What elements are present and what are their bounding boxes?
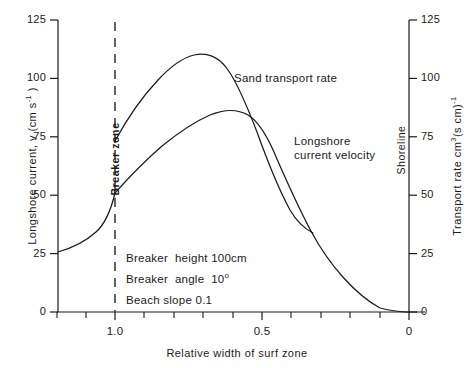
- x-axis-major-ticks: [115, 312, 409, 320]
- y-axis-left-ticks: [50, 20, 58, 312]
- y-axis-right-title: Transport rate cm3(s cm)-1: [451, 51, 463, 281]
- y-left-tick-label-0: 0: [20, 305, 46, 317]
- longshore-current-velocity-label-line1: Longshore: [294, 134, 351, 148]
- x-tick-label-1-0: 1.0: [95, 325, 135, 337]
- breaker-zone-label: Breaker zone: [109, 118, 121, 200]
- y-axis-left-title-suffix: ): [26, 87, 38, 95]
- y-axis-left-title-prefix: Longshore current, v (cm s: [26, 102, 38, 245]
- annotation-breaker-height: Breaker height 100cm: [126, 252, 247, 264]
- degree-symbol-icon: o: [224, 271, 229, 280]
- y-right-tick-label-50: 50: [421, 188, 447, 200]
- y-axis-right-title-prefix: Transport rate cm: [451, 142, 463, 236]
- y-axis-right-title-sup-minus1: -1: [449, 96, 458, 104]
- y-axis-left-title-sup: -1: [24, 95, 33, 103]
- y-right-tick-label-75: 75: [421, 130, 447, 142]
- annotation-breaker-angle: Breaker angle 10o: [126, 273, 229, 285]
- y-axis-right-title-mid: (s cm): [451, 104, 463, 137]
- sand-transport-rate-label: Sand transport rate: [234, 71, 337, 85]
- y-right-tick-label-25: 25: [421, 247, 447, 259]
- y-right-tick-label-100: 100: [421, 71, 447, 83]
- x-axis-minor-ticks: [57, 312, 380, 318]
- curve-shared-rising-limb: [58, 193, 115, 252]
- annotation-beach-slope: Beach slope 0.1: [126, 294, 212, 306]
- y-axis-right-title-sup-3: 3: [449, 137, 458, 142]
- y-right-tick-label-0: 0: [421, 305, 447, 317]
- shoreline-label: Shoreline: [395, 114, 407, 186]
- y-left-tick-label-125: 125: [20, 13, 46, 25]
- chart-figure: 125 100 75 50 25 0 125 100 75 50 25 0 1.…: [0, 0, 469, 368]
- longshore-current-velocity-label-line2: current velocity: [294, 148, 375, 162]
- y-axis-left-title: Longshore current, v (cm s-1 ): [26, 51, 38, 281]
- y-right-tick-label-125: 125: [421, 13, 447, 25]
- y-axis-right-ticks: [409, 20, 417, 312]
- x-tick-label-0: 0: [389, 325, 429, 337]
- annotation-breaker-angle-text: Breaker angle 10: [126, 273, 224, 285]
- x-axis-title: Relative width of surf zone: [137, 347, 337, 359]
- x-tick-label-0-5: 0.5: [242, 325, 282, 337]
